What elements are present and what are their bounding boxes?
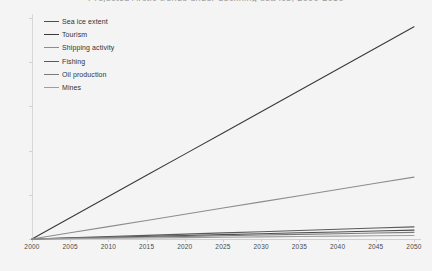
legend-line-icon xyxy=(44,47,59,48)
legend-line-icon xyxy=(44,74,59,75)
legend-item-label: Fishing xyxy=(62,58,85,65)
series-line xyxy=(32,177,414,239)
legend-line-icon xyxy=(44,87,59,88)
legend-item-label: Mines xyxy=(62,84,81,91)
legend-line-icon xyxy=(44,21,59,22)
legend-item[interactable]: Mines xyxy=(44,84,114,92)
chart-legend: Sea ice extentTourismShipping activityFi… xyxy=(44,17,114,92)
legend-item[interactable]: Fishing xyxy=(44,57,114,65)
legend-item[interactable]: Shipping activity xyxy=(44,44,114,52)
legend-line-icon xyxy=(44,34,59,35)
chart-figure: Projected Arctic trends under declining … xyxy=(0,0,432,271)
legend-item-label: Oil production xyxy=(62,71,107,78)
legend-item-label: Tourism xyxy=(62,31,87,38)
legend-item-label: Shipping activity xyxy=(62,44,114,51)
legend-item[interactable]: Sea ice extent xyxy=(44,17,114,25)
legend-item[interactable]: Tourism xyxy=(44,30,114,38)
legend-item-label: Sea ice extent xyxy=(62,18,108,25)
legend-line-icon xyxy=(44,61,59,62)
legend-item[interactable]: Oil production xyxy=(44,71,114,79)
